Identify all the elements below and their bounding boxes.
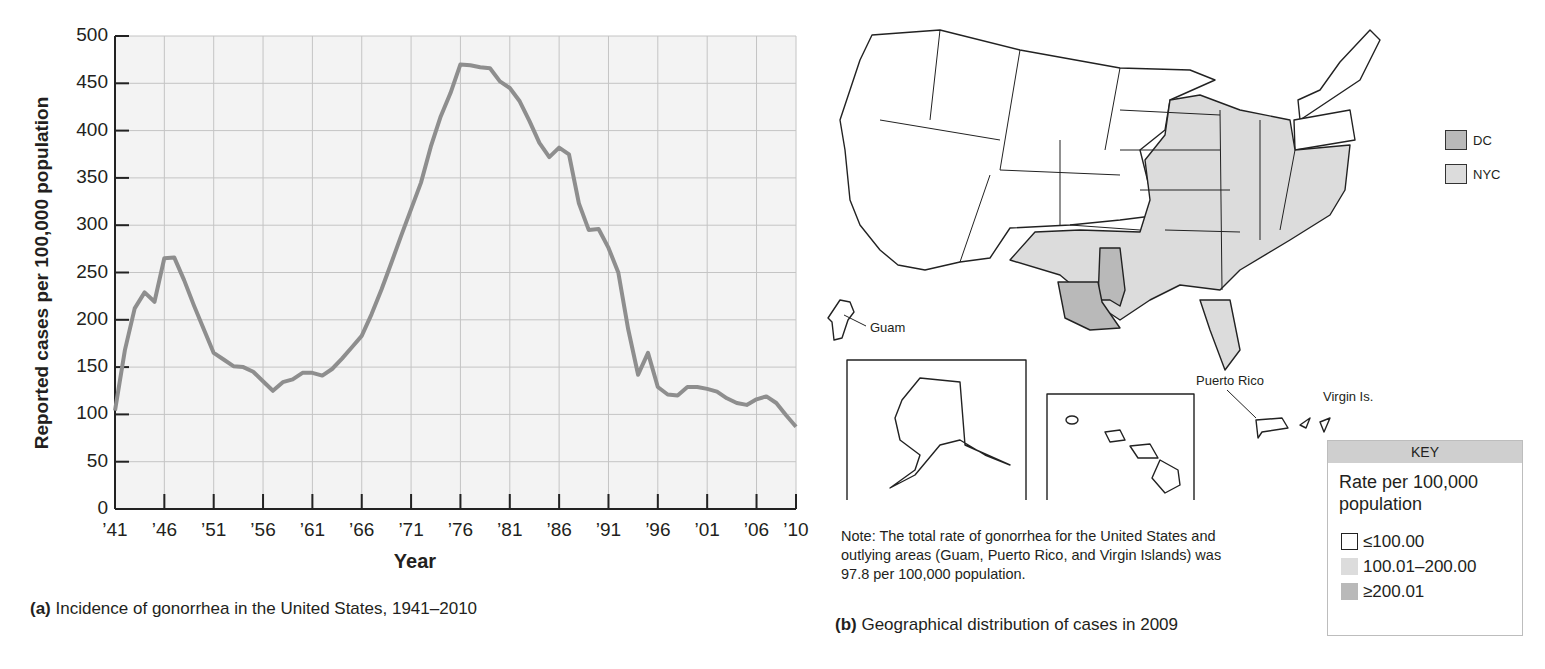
puerto-rico-label: Puerto Rico xyxy=(1196,373,1264,388)
y-tick-label: 250 xyxy=(58,261,108,283)
caption-b-label: (b) xyxy=(835,615,857,634)
nyc-swatch xyxy=(1445,164,1467,184)
y-tick-label: 50 xyxy=(58,450,108,472)
caption-a: (a) Incidence of gonorrhea in the United… xyxy=(30,599,477,619)
y-tick-label: 500 xyxy=(58,24,108,46)
caption-b: (b) Geographical distribution of cases i… xyxy=(835,615,1178,635)
key-label-mid: 100.01–200.00 xyxy=(1363,557,1476,577)
key-swatch-mid xyxy=(1341,558,1358,575)
dc-swatch xyxy=(1445,130,1467,150)
guam-label: Guam xyxy=(870,320,905,335)
nyc-label: NYC xyxy=(1473,167,1500,182)
dc-label: DC xyxy=(1473,133,1492,148)
y-tick-label: 0 xyxy=(58,497,108,519)
x-tick-label: ’76 xyxy=(435,519,485,541)
x-tick-label: ’86 xyxy=(534,519,584,541)
y-axis-label: Reported cases per 100,000 population xyxy=(31,83,53,463)
map-key: KEY Rate per 100,000 population ≤100.00 … xyxy=(1327,440,1523,636)
y-tick-label: 400 xyxy=(58,119,108,141)
puerto-rico-shape xyxy=(1256,418,1288,438)
us-map-svg xyxy=(820,0,1420,500)
x-tick-label: ’66 xyxy=(337,519,387,541)
virgin-islands-label: Virgin Is. xyxy=(1323,389,1373,404)
y-tick-label: 300 xyxy=(58,213,108,235)
y-tick-label: 150 xyxy=(58,355,108,377)
x-tick-label: ’01 xyxy=(682,519,732,541)
x-tick-label: ’81 xyxy=(485,519,535,541)
virgin-islands-shape xyxy=(1300,418,1330,432)
florida xyxy=(1200,300,1240,370)
x-tick-label: ’91 xyxy=(583,519,633,541)
x-tick-label: ’61 xyxy=(287,519,337,541)
key-label-low: ≤100.00 xyxy=(1363,532,1424,552)
puerto-rico-pointer xyxy=(1227,390,1256,418)
y-tick-label: 450 xyxy=(58,71,108,93)
legend-dc: DC xyxy=(1445,130,1492,150)
line-chart-svg xyxy=(0,0,820,560)
key-swatch-high xyxy=(1341,583,1358,600)
map-note: Note: The total rate of gonorrhea for th… xyxy=(841,527,1241,584)
legend-nyc: NYC xyxy=(1445,164,1500,184)
x-tick-label: ’71 xyxy=(386,519,436,541)
y-tick-label: 200 xyxy=(58,308,108,330)
key-swatch-low xyxy=(1341,533,1358,550)
x-tick-label: ’51 xyxy=(189,519,239,541)
key-title: Rate per 100,000 population xyxy=(1339,471,1522,515)
y-tick-label: 100 xyxy=(58,402,108,424)
x-axis-label: Year xyxy=(380,550,450,573)
key-item-low: ≤100.00 xyxy=(1341,529,1522,554)
x-tick-label: ’56 xyxy=(238,519,288,541)
key-label-high: ≥200.01 xyxy=(1363,582,1424,602)
key-item-mid: 100.01–200.00 xyxy=(1341,554,1522,579)
mississippi xyxy=(1098,248,1125,306)
y-tick-label: 350 xyxy=(58,166,108,188)
hawaii-kauai xyxy=(1066,416,1078,424)
key-item-high: ≥200.01 xyxy=(1341,579,1522,604)
caption-a-label: (a) xyxy=(30,599,51,618)
caption-a-text: Incidence of gonorrhea in the United Sta… xyxy=(51,599,477,618)
guam-shape xyxy=(828,300,854,340)
caption-b-text: Geographical distribution of cases in 20… xyxy=(857,615,1178,634)
x-tick-label: ’41 xyxy=(90,519,140,541)
x-tick-label: ’96 xyxy=(633,519,683,541)
x-tick-label: ’10 xyxy=(771,519,821,541)
new-england-states xyxy=(1298,30,1380,120)
x-tick-label: ’46 xyxy=(139,519,189,541)
key-header: KEY xyxy=(1328,441,1522,463)
